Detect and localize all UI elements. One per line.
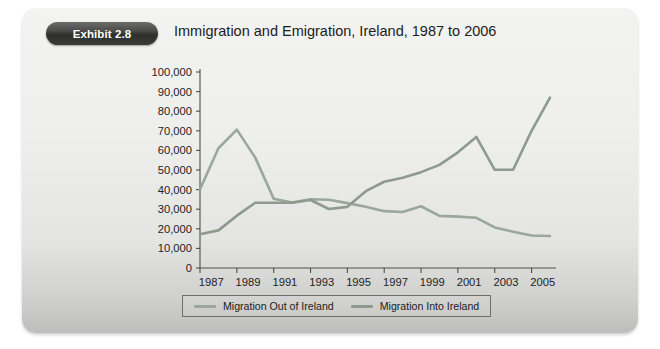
legend-entry-migration-in: Migration Into Ireland xyxy=(351,300,480,312)
x-axis-tick-label: 1997 xyxy=(383,276,408,288)
y-axis-tick-label: 100,000 xyxy=(152,66,192,78)
y-axis: 010,00020,00030,00040,00050,00060,00070,… xyxy=(152,66,200,274)
chart-series-group xyxy=(200,98,550,236)
x-axis-tick-label: 1995 xyxy=(346,276,371,288)
y-axis-tick-label: 50,000 xyxy=(158,164,192,176)
x-axis-tick-label: 1987 xyxy=(199,276,224,288)
y-axis-tick-label: 80,000 xyxy=(158,105,192,117)
legend-label-migration-in: Migration Into Ireland xyxy=(380,300,480,312)
series-line-migration-out xyxy=(200,130,550,236)
y-axis-tick-label: 20,000 xyxy=(158,223,192,235)
legend-entry-migration-out: Migration Out of Ireland xyxy=(194,300,334,312)
y-axis-tick-label: 70,000 xyxy=(158,125,192,137)
x-axis-tick-label: 2005 xyxy=(530,276,555,288)
x-axis: 1987198919911993199519971999200120032005 xyxy=(199,268,556,288)
legend-swatch-migration-in xyxy=(351,305,373,308)
y-axis-tick-label: 10,000 xyxy=(158,242,192,254)
x-axis-tick-label: 1989 xyxy=(236,276,261,288)
x-axis-tick-label: 2003 xyxy=(494,276,519,288)
chart-plot-area: 010,00020,00030,00040,00050,00060,00070,… xyxy=(22,8,638,333)
x-axis-tick-label: 1999 xyxy=(420,276,445,288)
exhibit-card: Exhibit 2.8 Immigration and Emigration, … xyxy=(22,8,638,333)
y-axis-tick-label: 40,000 xyxy=(158,184,192,196)
line-chart-svg: 010,00020,00030,00040,00050,00060,00070,… xyxy=(22,8,638,333)
x-axis-tick-label: 1993 xyxy=(309,276,334,288)
x-axis-tick-label: 2001 xyxy=(457,276,482,288)
x-axis-tick-label: 1991 xyxy=(272,276,297,288)
chart-legend: Migration Out of Ireland Migration Into … xyxy=(182,295,491,317)
y-axis-tick-label: 0 xyxy=(186,262,192,274)
y-axis-tick-label: 90,000 xyxy=(158,86,192,98)
series-line-migration-in xyxy=(200,98,550,235)
y-axis-tick-label: 60,000 xyxy=(158,144,192,156)
y-axis-tick-label: 30,000 xyxy=(158,203,192,215)
legend-label-migration-out: Migration Out of Ireland xyxy=(223,300,334,312)
legend-swatch-migration-out xyxy=(194,305,216,308)
